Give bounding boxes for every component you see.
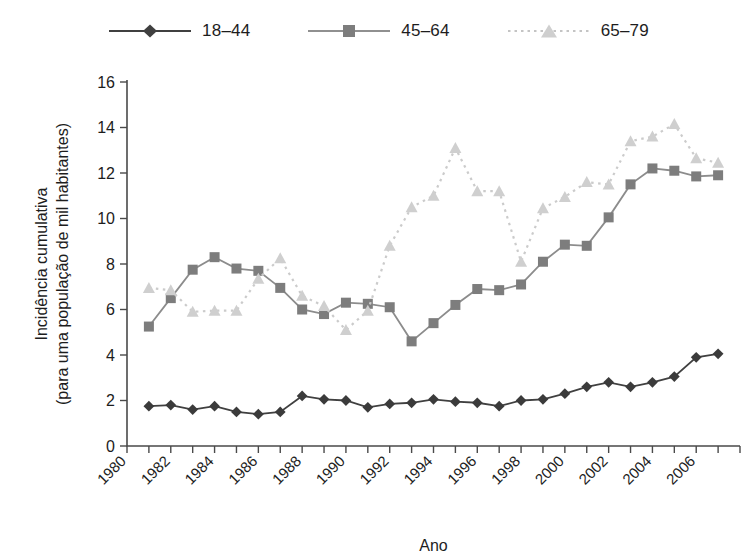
data-point (647, 377, 658, 388)
data-point (626, 179, 636, 189)
x-tick-label: 1990 (312, 452, 348, 488)
data-point (625, 381, 636, 392)
x-tick-label: 1992 (356, 452, 392, 488)
data-point (471, 185, 483, 196)
data-point (341, 395, 352, 406)
y-tick-label: 6 (106, 301, 115, 318)
data-point (582, 241, 592, 251)
x-tick-label: 1994 (400, 452, 436, 488)
y-tick-label: 16 (97, 74, 115, 91)
x-tick-label: 2006 (663, 452, 699, 488)
data-point (318, 300, 330, 311)
data-point (384, 240, 396, 251)
x-axis-title: Ano (419, 537, 448, 554)
data-point (385, 302, 395, 312)
y-axis-title-line1: Incidência cumulativa (33, 187, 50, 340)
data-point (537, 202, 549, 213)
data-point (406, 397, 417, 408)
x-tick-label: 2000 (531, 452, 567, 488)
data-point (384, 399, 395, 410)
data-point (407, 336, 417, 346)
data-point (210, 252, 220, 262)
legend-key-45-64 (306, 22, 392, 40)
data-point (515, 256, 527, 267)
axis-lines (127, 80, 740, 446)
data-point (428, 190, 440, 201)
data-point (560, 240, 570, 250)
data-point (494, 285, 504, 295)
data-point (143, 282, 155, 293)
data-point (516, 279, 526, 289)
x-tick-label: 1996 (444, 452, 480, 488)
series-18-44 (143, 348, 723, 419)
y-tick-label: 14 (97, 119, 115, 136)
x-tick-label: 1984 (181, 452, 217, 488)
data-point (494, 401, 505, 412)
data-point (362, 402, 373, 413)
y-tick-label: 12 (97, 165, 115, 182)
data-point (516, 395, 527, 406)
data-point (538, 257, 548, 267)
y-tick-label: 2 (106, 392, 115, 409)
data-point (143, 401, 154, 412)
data-point (187, 404, 198, 415)
series-line (149, 124, 718, 330)
data-point (472, 284, 482, 294)
y-tick-label: 0 (106, 438, 115, 455)
data-point (603, 178, 615, 189)
data-point (406, 201, 418, 212)
data-point (428, 394, 439, 405)
legend-item-18-44: 18–44 (107, 21, 250, 41)
series-65-79 (143, 118, 724, 335)
data-point (538, 394, 549, 405)
data-point (188, 265, 198, 275)
y-tick-label: 10 (97, 210, 115, 227)
data-point (209, 401, 220, 412)
data-point (713, 170, 723, 180)
legend-key-65-79 (506, 22, 592, 40)
data-point (144, 322, 154, 332)
data-point (713, 348, 724, 359)
legend-label-45-64: 45–64 (401, 21, 449, 41)
data-point (604, 212, 614, 222)
data-point (581, 381, 592, 392)
x-tick-label: 1986 (225, 452, 261, 488)
data-point (253, 409, 264, 420)
y-tick-label: 4 (106, 347, 115, 364)
data-point (275, 283, 285, 293)
legend-key-18-44 (107, 22, 193, 40)
data-point (559, 388, 570, 399)
data-point (646, 131, 658, 142)
legend-label-65-79: 65–79 (601, 21, 649, 41)
legend-item-65-79: 65–79 (506, 21, 649, 41)
x-tick-label: 2002 (575, 452, 611, 488)
chart-container: 18–44 45–64 65–79 0246810121416198019821… (0, 0, 756, 556)
plot-area: 0246810121416198019821984198619881990199… (0, 48, 756, 556)
chart-legend: 18–44 45–64 65–79 (0, 14, 756, 48)
data-point (450, 300, 460, 310)
data-point (449, 142, 461, 153)
x-tick-label: 1982 (137, 452, 173, 488)
data-point (274, 252, 286, 263)
data-point (429, 318, 439, 328)
data-point (319, 394, 330, 405)
data-point (691, 171, 701, 181)
data-point (231, 264, 241, 274)
data-point (493, 185, 505, 196)
data-point (690, 152, 702, 163)
data-point (450, 396, 461, 407)
legend-label-18-44: 18–44 (202, 21, 250, 41)
x-tick-label: 1980 (94, 452, 130, 488)
data-point (581, 176, 593, 187)
chart-svg: 0246810121416198019821984198619881990199… (0, 48, 756, 556)
x-tick-label: 2004 (619, 452, 655, 488)
legend-item-45-64: 45–64 (306, 21, 449, 41)
x-tick-label: 1998 (488, 452, 524, 488)
data-point (472, 397, 483, 408)
data-point (603, 377, 614, 388)
data-point (341, 298, 351, 308)
data-point (231, 406, 242, 417)
data-point (712, 157, 724, 168)
y-tick-label: 8 (106, 256, 115, 273)
data-point (647, 163, 657, 173)
